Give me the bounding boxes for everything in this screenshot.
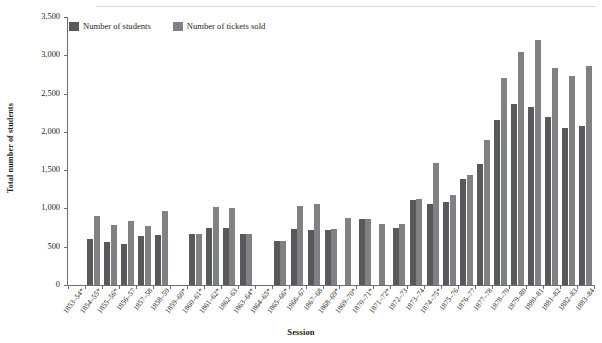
y-tick-mark xyxy=(64,208,68,209)
bar-tickets xyxy=(416,199,422,285)
y-axis-tick-labels: 05001,0001,5002,0002,5003,0003,500 xyxy=(14,0,60,343)
bar-tickets xyxy=(331,229,337,285)
bar-tickets xyxy=(213,207,219,285)
bar-students xyxy=(87,239,93,285)
y-tick-label: 1,000 xyxy=(18,204,60,212)
bar-tickets xyxy=(162,211,168,285)
bar-students xyxy=(325,230,331,285)
bar-tickets xyxy=(365,219,371,285)
y-tick-label: 0 xyxy=(18,281,60,289)
bar-students xyxy=(494,120,500,285)
bar-tickets xyxy=(467,175,473,285)
bar-tickets xyxy=(399,224,405,285)
bar-students xyxy=(189,234,195,285)
bar-students xyxy=(460,179,466,285)
bar-tickets xyxy=(345,218,351,285)
bar-students xyxy=(443,202,449,285)
bar-students xyxy=(528,107,534,285)
bar-students xyxy=(545,117,551,285)
bar-tickets xyxy=(196,234,202,285)
bar-tickets xyxy=(569,76,575,285)
y-tick-mark xyxy=(64,17,68,18)
y-tick-label: 2,500 xyxy=(18,90,60,98)
bar-students xyxy=(393,228,399,285)
bar-tickets xyxy=(145,226,151,285)
bar-students xyxy=(206,228,212,285)
bar-tickets xyxy=(94,216,100,285)
legend-label-tickets: Number of tickets sold xyxy=(187,22,266,31)
plot-inner xyxy=(68,17,594,285)
bar-tickets xyxy=(229,208,235,285)
bar-chart: Total number of students 05001,0001,5002… xyxy=(0,0,602,343)
bar-tickets xyxy=(518,52,524,285)
y-tick-label: 1,500 xyxy=(18,166,60,174)
bar-students xyxy=(138,236,144,285)
legend-entry-students: Number of students xyxy=(69,22,151,31)
legend-swatch-tickets-icon xyxy=(173,22,183,31)
bar-tickets xyxy=(111,225,117,285)
bar-tickets xyxy=(297,206,303,285)
y-tick-mark xyxy=(64,170,68,171)
bar-tickets xyxy=(552,68,558,285)
bar-students xyxy=(291,229,297,285)
y-tick-label: 3,000 xyxy=(18,51,60,59)
y-tick-mark xyxy=(64,132,68,133)
bar-students xyxy=(427,204,433,285)
legend-swatch-students-icon xyxy=(69,22,79,31)
bar-tickets xyxy=(450,195,456,285)
bar-tickets xyxy=(379,224,385,285)
bar-tickets xyxy=(246,234,252,285)
bar-students xyxy=(477,164,483,285)
bar-students xyxy=(121,244,127,285)
bar-tickets xyxy=(501,78,507,286)
plot-area xyxy=(67,17,594,286)
top-divider xyxy=(96,6,596,7)
y-tick-mark xyxy=(64,55,68,56)
bar-tickets xyxy=(280,241,286,285)
y-tick-mark xyxy=(64,94,68,95)
bar-tickets xyxy=(535,40,541,285)
bar-tickets xyxy=(314,204,320,285)
y-tick-label: 500 xyxy=(18,243,60,251)
bar-tickets xyxy=(484,140,490,285)
bar-students xyxy=(410,200,416,285)
bar-students xyxy=(223,228,229,285)
legend-entry-tickets: Number of tickets sold xyxy=(173,22,266,31)
bar-students xyxy=(104,242,110,285)
bar-students xyxy=(240,234,246,285)
bar-tickets xyxy=(586,66,592,285)
bar-students xyxy=(308,230,314,285)
y-tick-label: 2,000 xyxy=(18,128,60,136)
bar-students xyxy=(274,241,280,285)
bar-students xyxy=(155,235,161,285)
y-tick-mark xyxy=(64,247,68,248)
x-axis-title: Session xyxy=(0,327,602,337)
bar-students xyxy=(511,104,517,285)
bar-students xyxy=(562,128,568,285)
bar-tickets xyxy=(433,163,439,286)
bar-students xyxy=(579,126,585,285)
bar-tickets xyxy=(128,221,134,285)
chart-legend: Number of students Number of tickets sol… xyxy=(69,19,265,33)
legend-spacer xyxy=(151,26,173,27)
y-tick-label: 3,500 xyxy=(18,13,60,21)
bar-students xyxy=(359,219,365,285)
legend-label-students: Number of students xyxy=(83,22,151,31)
